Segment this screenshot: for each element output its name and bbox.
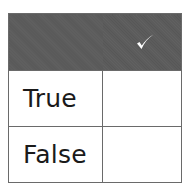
header-label-cell bbox=[9, 14, 103, 71]
header-check-cell bbox=[103, 14, 182, 71]
table-header-row bbox=[9, 14, 182, 71]
true-false-table: True False bbox=[8, 13, 182, 183]
check-cell-false[interactable] bbox=[103, 127, 182, 183]
checkmark-icon bbox=[135, 32, 155, 52]
row-label-false: False bbox=[9, 127, 103, 183]
table-row: False bbox=[9, 127, 182, 183]
check-cell-true[interactable] bbox=[103, 71, 182, 127]
row-label-true: True bbox=[9, 71, 103, 127]
table-row: True bbox=[9, 71, 182, 127]
